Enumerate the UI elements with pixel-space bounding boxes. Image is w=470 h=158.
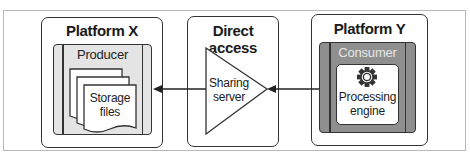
flow-arrows <box>0 0 470 158</box>
arrow-head-server <box>267 85 276 93</box>
arrow-head-producer <box>153 85 162 93</box>
